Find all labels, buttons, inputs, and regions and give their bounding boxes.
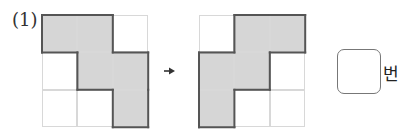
unit-label: 번: [383, 60, 399, 85]
problem-label: (1): [12, 9, 38, 30]
grid-before: [42, 15, 148, 127]
shape-outline: [42, 15, 149, 128]
shape-outline: [199, 15, 306, 128]
right-arrow-icon: [164, 66, 175, 76]
answer-input-box[interactable]: [337, 49, 381, 94]
grid-after: [199, 15, 305, 127]
